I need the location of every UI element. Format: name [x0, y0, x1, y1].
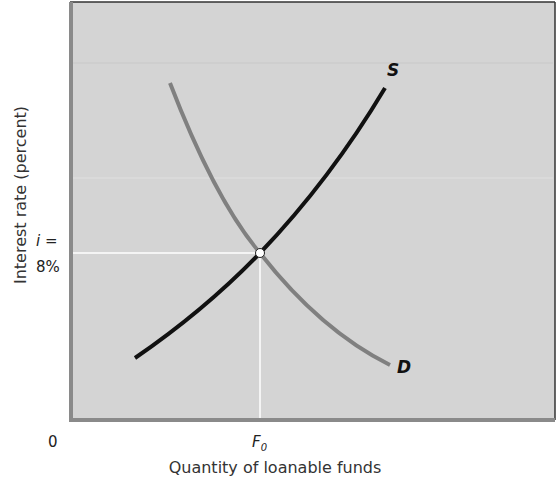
eq-quantity-sub: 0	[261, 442, 267, 453]
equilibrium-point	[256, 249, 265, 258]
eq-quantity-label: F0	[252, 433, 267, 453]
y-axis-label: Interest rate (percent)	[11, 106, 30, 284]
demand-label: D	[397, 357, 411, 377]
x-axis-label: Quantity of loanable funds	[169, 458, 382, 477]
eq-rate-label-line2: 8%	[36, 258, 60, 276]
eq-rate-label-line1: i =	[36, 232, 58, 250]
plot-area	[70, 2, 555, 420]
eq-quantity-main: F	[252, 433, 261, 451]
supply-label: S	[387, 60, 399, 80]
origin-label: 0	[48, 433, 58, 451]
